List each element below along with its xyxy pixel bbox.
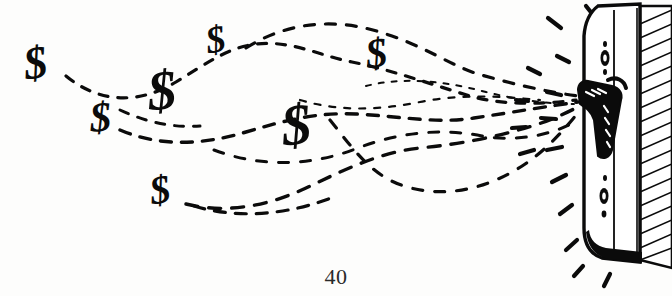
trajectory-path-9	[194, 196, 336, 214]
burst-dash	[512, 127, 526, 128]
wallet	[578, 4, 672, 268]
trajectory-path-7	[366, 81, 574, 104]
burst-dash	[552, 175, 566, 182]
burst-dash	[528, 68, 540, 74]
illustration-page: $ $ $ $ $ $ $ 40 Money flying out of a w…	[0, 0, 672, 296]
burst-dash	[557, 56, 569, 62]
page-number: 40	[0, 264, 672, 290]
dollar-sign-3: $	[146, 61, 179, 119]
burst-dash	[520, 150, 534, 154]
burst-dash	[547, 147, 562, 150]
burst-dash	[566, 240, 577, 250]
burst-dash	[516, 100, 528, 101]
burst-dash	[541, 118, 556, 119]
dollar-sign-2: $	[89, 95, 113, 138]
trajectory-paths	[66, 24, 580, 214]
burst-dash	[560, 205, 572, 214]
trajectory-path-2	[246, 24, 578, 96]
trajectory-path-4	[186, 106, 580, 208]
dollar-sign-5: $	[279, 95, 314, 156]
illustration-canvas	[0, 0, 672, 296]
burst-dash	[548, 18, 561, 28]
wallet-spine	[640, 6, 672, 268]
burst-dash	[547, 92, 561, 95]
